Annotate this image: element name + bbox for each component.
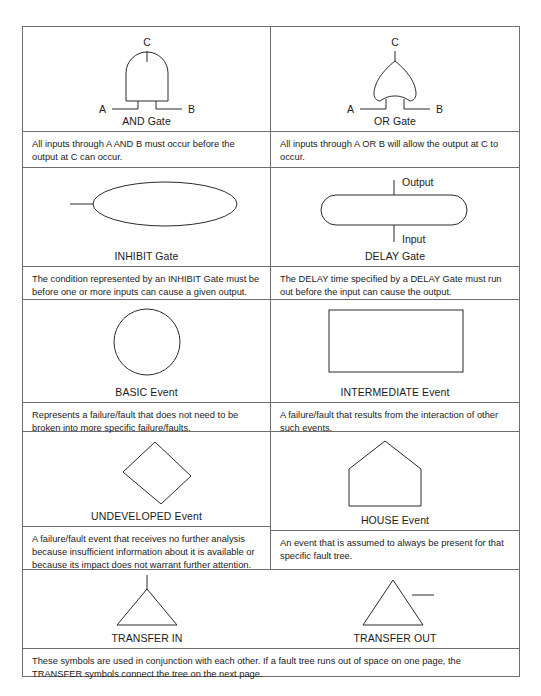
cell-inhibit-gate: INHIBIT Gate The condition represented b… xyxy=(23,168,271,299)
and-gate-icon: C A B xyxy=(72,33,222,115)
undeveloped-event-description: A failure/fault event that receives no f… xyxy=(23,526,270,579)
transfer-in-caption: TRANSFER IN xyxy=(111,632,182,648)
transfer-description: These symbols are used in conjunction wi… xyxy=(23,648,519,687)
intermediate-event-symbol-area: INTERMEDIATE Event xyxy=(271,300,519,402)
and-gate-input-right-label: B xyxy=(188,103,195,115)
and-gate-caption: AND Gate xyxy=(122,115,171,131)
cell-delay-gate: Output Input DELAY Gate The DELAY time s… xyxy=(271,168,519,299)
cell-undeveloped-event: UNDEVELOPED Event A failure/fault event … xyxy=(23,432,271,569)
cell-house-event: HOUSE Event An event that is assumed to … xyxy=(271,432,519,569)
delay-gate-symbol-area: Output Input DELAY Gate xyxy=(271,168,519,266)
undeveloped-event-diamond-icon xyxy=(67,438,227,508)
transfer-out-symbol-area: TRANSFER OUT xyxy=(271,570,519,648)
house-event-pentagon-icon xyxy=(305,438,485,512)
table-row-undeveloped-house: UNDEVELOPED Event A failure/fault event … xyxy=(23,432,519,570)
cell-or-gate: C A B OR Gate All inputs through A OR B … xyxy=(271,27,519,167)
delay-gate-output-label: Output xyxy=(402,176,434,188)
delay-gate-icon: Output Input xyxy=(280,174,510,250)
undeveloped-event-caption: UNDEVELOPED Event xyxy=(91,510,202,526)
or-gate-input-right-label: B xyxy=(436,103,443,115)
or-gate-description: All inputs through A OR B will allow the… xyxy=(271,131,519,170)
cell-intermediate-event: INTERMEDIATE Event A failure/fault that … xyxy=(271,300,519,431)
house-event-symbol-area: HOUSE Event xyxy=(271,432,519,530)
or-gate-icon: C A B xyxy=(320,33,470,115)
or-gate-input-left-label: A xyxy=(347,103,354,115)
transfer-in-symbol-area: TRANSFER IN xyxy=(23,570,271,648)
undeveloped-event-symbol-area: UNDEVELOPED Event xyxy=(23,432,270,526)
cell-and-gate: C A B AND Gate All inputs through A AND … xyxy=(23,27,271,167)
or-gate-caption: OR Gate xyxy=(374,115,416,131)
basic-event-caption: BASIC Event xyxy=(115,386,177,402)
intermediate-event-rect-icon xyxy=(295,306,495,380)
basic-event-symbol-area: BASIC Event xyxy=(23,300,270,402)
basic-event-circle-icon xyxy=(67,306,227,380)
table-row-inhibit-delay: INHIBIT Gate The condition represented b… xyxy=(23,168,519,300)
table-row-gates: C A B AND Gate All inputs through A AND … xyxy=(23,27,519,168)
transfer-in-triangle-icon xyxy=(67,574,227,632)
and-gate-symbol-area: C A B AND Gate xyxy=(23,27,270,131)
and-gate-description: All inputs through A AND B must occur be… xyxy=(23,131,270,170)
intermediate-event-caption: INTERMEDIATE Event xyxy=(341,386,450,402)
delay-gate-input-label: Input xyxy=(402,233,425,245)
and-gate-output-label: C xyxy=(143,36,151,48)
inhibit-gate-symbol-area: INHIBIT Gate xyxy=(23,168,270,266)
fault-tree-symbols-table: C A B AND Gate All inputs through A AND … xyxy=(22,26,520,677)
or-gate-symbol-area: C A B OR Gate xyxy=(271,27,519,131)
inhibit-gate-icon xyxy=(32,174,262,238)
inhibit-gate-caption: INHIBIT Gate xyxy=(114,250,178,266)
and-gate-input-left-label: A xyxy=(98,103,105,115)
delay-gate-caption: DELAY Gate xyxy=(365,250,425,266)
table-row-basic-intermediate: BASIC Event Represents a failure/fault t… xyxy=(23,300,519,432)
house-event-caption: HOUSE Event xyxy=(361,514,429,530)
transfer-out-triangle-icon xyxy=(315,574,475,632)
or-gate-output-label: C xyxy=(391,36,399,48)
transfer-out-caption: TRANSFER OUT xyxy=(354,632,437,648)
transfer-symbols-container: TRANSFER IN TRANSFER OUT xyxy=(23,570,519,648)
cell-basic-event: BASIC Event Represents a failure/fault t… xyxy=(23,300,271,431)
table-row-transfer: TRANSFER IN TRANSFER OUT These symbols a… xyxy=(23,570,519,676)
house-event-description: An event that is assumed to always be pr… xyxy=(271,530,519,569)
